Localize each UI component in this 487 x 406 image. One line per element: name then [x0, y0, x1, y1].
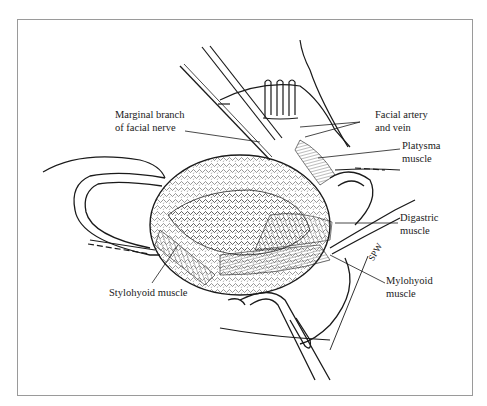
label-platysma-muscle: Platysma muscle	[402, 140, 441, 165]
label-marginal-branch-facial-nerve: Marginal branch of facial nerve	[115, 109, 185, 134]
label-facial-artery-vein: Facial artery and vein	[375, 109, 428, 134]
surgical-illustration	[0, 0, 487, 406]
label-stylohyoid-muscle: Stylohyoid muscle	[109, 287, 187, 300]
forceps-instruments	[180, 46, 282, 160]
label-mylohyoid-muscle: Mylohyoid muscle	[386, 275, 433, 300]
label-digastric-muscle: Digastric muscle	[400, 212, 439, 237]
